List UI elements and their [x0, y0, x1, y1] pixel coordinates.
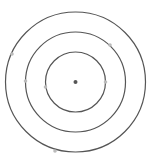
middle-circle-point	[108, 43, 112, 47]
inner-circle-point	[44, 85, 48, 89]
outer-circle-point	[10, 52, 14, 56]
outer-circle-point	[53, 149, 57, 153]
concentric-circles-diagram	[0, 0, 154, 158]
inner-circle-point	[104, 80, 108, 84]
middle-circle-point	[24, 79, 28, 83]
points-group	[10, 43, 112, 153]
center-point	[74, 80, 78, 84]
